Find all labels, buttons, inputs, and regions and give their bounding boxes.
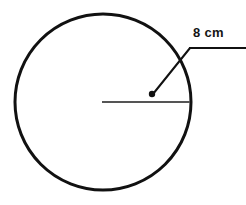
radius-dimension-label: 8 cm bbox=[193, 26, 224, 39]
circle-diagram: 8 cm bbox=[0, 0, 246, 205]
radius-point-dot bbox=[149, 91, 155, 97]
